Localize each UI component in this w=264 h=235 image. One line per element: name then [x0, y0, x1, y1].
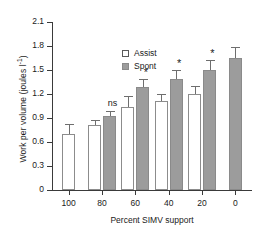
significance-marker: * [210, 48, 214, 59]
bar-spont-0 [229, 58, 242, 190]
error-bar-cap [65, 124, 74, 125]
legend-swatch-spont-icon [122, 63, 129, 70]
y-tick-label: 0 [39, 184, 44, 194]
error-bar-cap [206, 60, 215, 61]
plot-area: 00.30.60.91.21.51.82.1 100806040200 ns**… [52, 22, 252, 190]
x-tick-label: 0 [233, 198, 238, 208]
y-tick-label: 0.6 [32, 136, 44, 146]
bar-assist-20 [188, 94, 201, 190]
y-tick: 0.9 [47, 118, 52, 119]
bar-spont-20 [203, 70, 216, 190]
x-tick [102, 190, 103, 195]
x-tick-label: 60 [131, 198, 140, 208]
error-bar [161, 94, 162, 101]
chart-figure: Work per volume (joules l-1) 00.30.60.91… [0, 0, 264, 235]
y-axis-line [52, 22, 53, 190]
y-axis-title-text: Work per volume (joules l [18, 64, 28, 162]
significance-marker: * [177, 58, 181, 69]
bar-assist-80 [88, 125, 101, 190]
error-bar [235, 47, 236, 58]
error-bar-cap [124, 96, 133, 97]
error-bar [210, 60, 211, 70]
x-tick [169, 190, 170, 195]
error-bar [128, 96, 129, 106]
error-bar-cap [191, 86, 200, 87]
x-axis-title: Percent SIMV support [52, 215, 252, 225]
x-tick-label: 40 [164, 198, 173, 208]
legend-swatch-assist-icon [122, 50, 129, 57]
error-bar [176, 70, 177, 79]
x-tick [202, 190, 203, 195]
y-tick: 2.1 [47, 22, 52, 23]
error-bar-cap [106, 111, 115, 112]
x-tick-label: 100 [62, 198, 76, 208]
legend-item-assist: Assist [122, 48, 157, 58]
x-tick-label: 80 [97, 198, 106, 208]
error-bar-cap [172, 70, 181, 71]
x-tick-label: 20 [197, 198, 206, 208]
x-tick [235, 190, 236, 195]
y-tick-label: 1.5 [32, 64, 44, 74]
y-tick: 0.3 [47, 166, 52, 167]
y-tick-label: 0.9 [32, 112, 44, 122]
y-tick: 0 [47, 190, 52, 191]
bar-spont-80 [103, 116, 116, 190]
y-axis-title: Work per volume (joules l-1) [16, 19, 28, 199]
error-bar-cap [231, 47, 240, 48]
error-bar-cap [139, 79, 148, 80]
y-tick: 1.5 [47, 70, 52, 71]
bar-assist-100 [62, 134, 75, 190]
significance-marker: ns [108, 99, 118, 108]
error-bar [69, 124, 70, 134]
error-bar-cap [91, 120, 100, 121]
legend: Assist Spont [122, 48, 157, 74]
y-tick: 1.8 [47, 46, 52, 47]
bar-assist-60 [121, 107, 134, 190]
y-axis-title-suffix: ) [18, 55, 28, 58]
y-axis-title-exponent: -1 [16, 58, 23, 64]
y-tick-label: 1.8 [32, 40, 44, 50]
x-tick [135, 190, 136, 195]
bar-assist-40 [155, 101, 168, 190]
bar-spont-60 [136, 87, 149, 190]
y-tick-label: 2.1 [32, 16, 44, 26]
error-bar-cap [157, 94, 166, 95]
error-bar [143, 79, 144, 87]
y-tick-label: 0.3 [32, 160, 44, 170]
bar-spont-40 [170, 79, 183, 190]
legend-label-assist: Assist [134, 48, 157, 58]
x-axis-line [52, 190, 252, 191]
y-tick: 1.2 [47, 94, 52, 95]
error-bar [195, 86, 196, 94]
legend-label-spont: Spont [134, 61, 156, 71]
y-tick: 0.6 [47, 142, 52, 143]
legend-item-spont: Spont [122, 61, 157, 71]
y-tick-label: 1.2 [32, 88, 44, 98]
x-tick [69, 190, 70, 195]
